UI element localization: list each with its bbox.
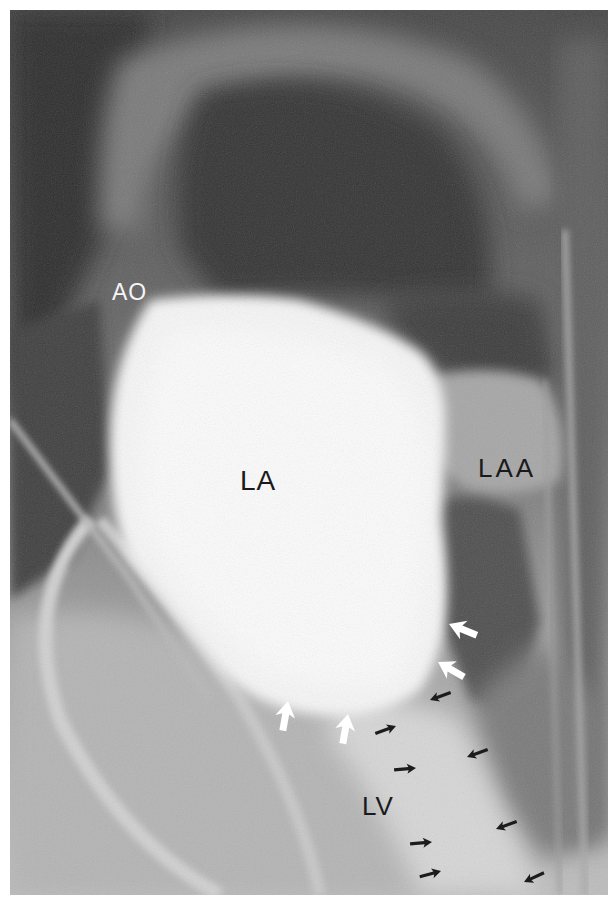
- black-arrow-2: [374, 721, 398, 738]
- white-arrow-1: [445, 615, 480, 645]
- black-arrow-7: [494, 817, 518, 834]
- arrow-annotations: [10, 10, 608, 895]
- black-arrow-1: [428, 688, 452, 705]
- black-arrow-3: [394, 763, 417, 775]
- black-arrow-4: [465, 745, 489, 762]
- white-arrow-2: [433, 653, 469, 685]
- black-arrow-8: [522, 868, 546, 886]
- white-arrow-4: [333, 712, 358, 745]
- radiograph-image: AO LA LAA LV: [10, 10, 608, 895]
- black-arrow-5: [410, 837, 433, 849]
- white-arrow-3: [273, 699, 298, 732]
- black-arrow-6: [418, 866, 442, 881]
